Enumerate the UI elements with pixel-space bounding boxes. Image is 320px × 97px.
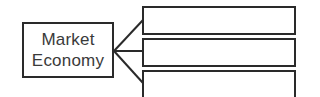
source-label-line1: Market (41, 29, 94, 50)
target-box-1 (142, 6, 296, 35)
source-label-line2: Economy (32, 50, 104, 71)
connector-bottom (114, 51, 143, 83)
target-box-3 (142, 70, 296, 97)
target-box-2 (142, 38, 296, 67)
connector-top (114, 20, 143, 51)
source-box-market-economy: Market Economy (22, 22, 114, 78)
